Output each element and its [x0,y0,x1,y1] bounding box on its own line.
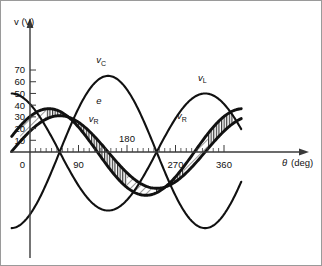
curve-label-e: e [96,95,101,106]
waveform-plot: 010203040506070 90180270360 v (V) θ (deg… [0,0,322,266]
curve-label-vL: vL [198,72,207,85]
x-axis-arrow [299,149,309,156]
y-tick-label: 40 [14,100,25,111]
curve-label-vR: vR [89,113,99,126]
y-axis-title: v (V) [14,16,34,27]
x-axis-title: θ (deg) [282,157,313,168]
y-tick-label: 50 [14,88,25,99]
x-tick-label: 270 [168,159,184,170]
y-tick-labels: 010203040506070 [14,64,25,170]
y-tick-label: 60 [14,76,25,87]
y-tick-label: 30 [14,111,25,122]
axes-group [10,18,309,258]
x-axis-title-symbol: θ [282,157,288,168]
curve-label-vC: vC [96,54,106,66]
curve-labels: evRvRvCvL [89,54,207,125]
y-tick-label: 70 [14,64,25,75]
x-axis-title-unit: (deg) [291,157,313,168]
y-tick-label: 20 [14,123,25,134]
chart-container: 010203040506070 90180270360 v (V) θ (deg… [0,0,322,266]
x-tick-label: 360 [216,159,232,170]
y-tick-label: 10 [14,135,25,146]
y-tick-label: 0 [20,159,25,170]
curve-label-vR-2: vR [177,110,187,123]
x-tick-label: 180 [119,133,135,144]
x-tick-label: 90 [73,159,84,170]
